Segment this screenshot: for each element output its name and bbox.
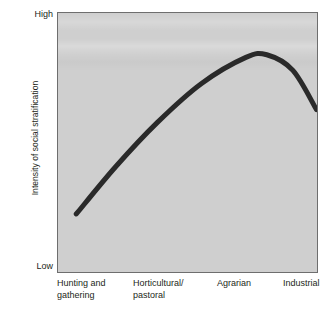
chart-figure: Intensity of social stratification High … bbox=[0, 0, 330, 310]
x-axis-tick-industrial: Industrial bbox=[283, 278, 320, 290]
x-axis-tick-horticultural-pastoral: Horticultural/ pastoral bbox=[133, 278, 184, 301]
x-axis-tick-agrarian: Agrarian bbox=[217, 278, 251, 290]
stratification-curve-line bbox=[76, 53, 316, 214]
x-axis-tick-labels: Hunting and gathering Horticultural/ pas… bbox=[57, 278, 330, 308]
y-axis-title: Intensity of social stratification bbox=[27, 38, 43, 238]
plot-area bbox=[57, 12, 318, 273]
stratification-curve-svg bbox=[58, 13, 318, 273]
x-axis-tick-hunting-and-gathering: Hunting and gathering bbox=[57, 278, 106, 301]
y-axis-tick-low: Low bbox=[7, 261, 53, 271]
y-axis-tick-high: High bbox=[7, 9, 53, 19]
